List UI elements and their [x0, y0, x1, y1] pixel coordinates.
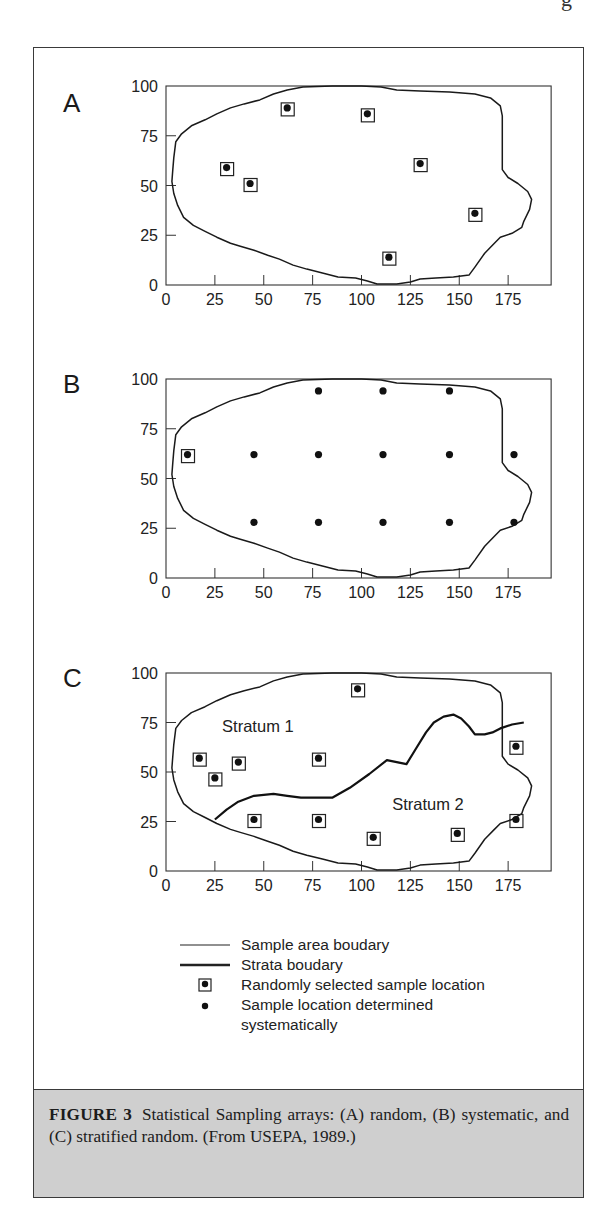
sample-dot [512, 816, 519, 823]
plot-area [166, 379, 551, 578]
sample-dot [417, 160, 424, 167]
x-tick-label: 25 [206, 584, 224, 601]
x-tick-label: 175 [495, 877, 522, 894]
figure-caption: FIGURE 3Statistical Sampling arrays: (A)… [33, 1089, 584, 1198]
systematic-sample-dot [446, 519, 453, 526]
sample-dot [223, 164, 230, 171]
sample-dot [250, 816, 257, 823]
x-tick-label: 75 [304, 584, 322, 601]
systematic-sample-dot [315, 451, 322, 458]
sample-area-boundary [172, 86, 532, 284]
panel-label: C [63, 663, 82, 693]
x-tick-label: 0 [162, 291, 171, 308]
x-tick-label: 25 [206, 291, 224, 308]
x-tick-label: 75 [304, 291, 322, 308]
panel-label: A [63, 88, 81, 118]
legend-item-strata-boundary: Strata boudary [180, 955, 540, 975]
panel-b: B02550751000255075100125150175 [63, 369, 551, 601]
y-tick-label: 50 [140, 471, 158, 488]
x-tick-label: 0 [162, 584, 171, 601]
sample-dot [471, 210, 478, 217]
plot-area [166, 86, 551, 285]
systematic-sample-dot [510, 519, 517, 526]
y-tick-label: 25 [140, 520, 158, 537]
legend-label: Strata boudary [241, 955, 343, 975]
systematic-sample-dot [379, 451, 386, 458]
sample-dot [235, 759, 242, 766]
x-tick-label: 100 [348, 584, 375, 601]
sample-dot [196, 755, 203, 762]
y-tick-label: 75 [140, 128, 158, 145]
stratum-label: Stratum 1 [222, 717, 294, 735]
x-tick-label: 175 [495, 291, 522, 308]
systematic-sample-dot [446, 451, 453, 458]
panel-c: C02550751000255075100125150175Stratum 1S… [63, 663, 551, 894]
systematic-sample-dot [446, 387, 453, 394]
legend-label: Sample area boudary [241, 935, 389, 955]
systematic-sample-dot [315, 387, 322, 394]
sample-dot [364, 110, 371, 117]
x-tick-label: 0 [162, 877, 171, 894]
x-tick-label: 175 [495, 584, 522, 601]
x-tick-label: 100 [348, 291, 375, 308]
x-tick-label: 50 [255, 584, 273, 601]
legend-item-systematic-sample: Sample location determined systematicall… [180, 995, 540, 1035]
y-tick-label: 50 [140, 178, 158, 195]
sample-dot [284, 104, 291, 111]
sample-dot [385, 254, 392, 261]
sample-dot [211, 774, 218, 781]
x-tick-label: 50 [255, 291, 273, 308]
thick-line-icon [180, 955, 230, 975]
systematic-sample-dot [315, 519, 322, 526]
sample-area-boundary [172, 379, 532, 577]
systematic-sample-dot [250, 519, 257, 526]
sample-dot [315, 755, 322, 762]
dot-icon [180, 995, 230, 1015]
x-tick-label: 150 [446, 291, 473, 308]
y-tick-label: 50 [140, 764, 158, 781]
x-tick-label: 25 [206, 877, 224, 894]
legend-label: Randomly selected sample location [241, 975, 485, 995]
sample-dot [512, 743, 519, 750]
y-tick-label: 25 [140, 227, 158, 244]
y-tick-label: 100 [131, 665, 158, 682]
x-tick-label: 100 [348, 877, 375, 894]
panel-label: B [63, 369, 80, 399]
x-tick-label: 150 [446, 584, 473, 601]
systematic-sample-dot [250, 451, 257, 458]
figure-plots: A02550751000255075100125150175B025507510… [0, 0, 611, 1220]
x-tick-label: 75 [304, 877, 322, 894]
sample-area-boundary [172, 673, 532, 870]
y-tick-label: 25 [140, 814, 158, 831]
systematic-sample-dot [184, 451, 191, 458]
boxed-dot-icon [180, 975, 230, 995]
x-tick-label: 50 [255, 877, 273, 894]
sample-dot [370, 834, 377, 841]
y-tick-label: 100 [131, 371, 158, 388]
y-tick-label: 75 [140, 421, 158, 438]
legend-item-sample-area-boundary: Sample area boudary [180, 935, 540, 955]
y-tick-label: 0 [149, 570, 158, 587]
sample-dot [315, 816, 322, 823]
x-tick-label: 125 [397, 584, 424, 601]
x-tick-label: 125 [397, 291, 424, 308]
x-tick-label: 125 [397, 877, 424, 894]
y-tick-label: 0 [149, 277, 158, 294]
panel-a: A02550751000255075100125150175 [63, 78, 551, 308]
stratum-label: Stratum 2 [392, 795, 464, 813]
y-tick-label: 75 [140, 715, 158, 732]
systematic-sample-dot [379, 387, 386, 394]
legend-label: Sample location determined systematicall… [241, 995, 471, 1035]
x-tick-label: 150 [446, 877, 473, 894]
systematic-sample-dot [379, 519, 386, 526]
y-tick-label: 100 [131, 78, 158, 95]
legend: Sample area boudary Strata boudary Rando… [180, 935, 540, 1035]
thin-line-icon [180, 935, 230, 955]
sample-dot [454, 830, 461, 837]
y-tick-label: 0 [149, 863, 158, 880]
sample-dot [246, 180, 253, 187]
sample-dot [354, 685, 361, 692]
legend-item-random-sample: Randomly selected sample location [180, 975, 540, 995]
plot-area [166, 673, 551, 871]
systematic-sample-dot [510, 451, 517, 458]
